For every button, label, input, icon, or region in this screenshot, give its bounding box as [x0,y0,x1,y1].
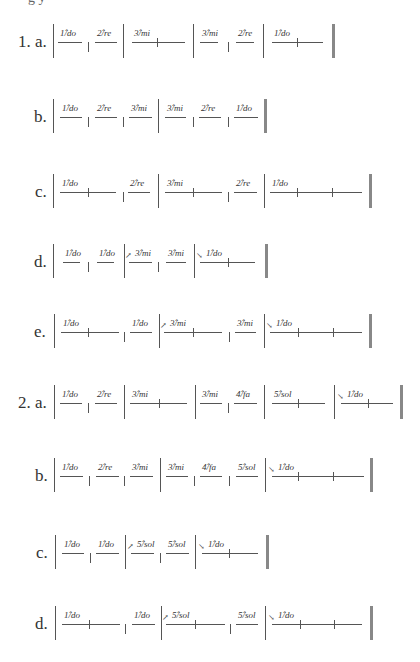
scale-degree-label: 1̂/do [274,28,290,38]
scale-degree-label: 3̂/mi [132,389,148,399]
beat-divider [123,192,124,202]
duration-line [62,553,84,554]
note-cell: 2̂/re [199,97,221,137]
note-cell: 2̂/re [95,383,117,423]
scale-degree-label: 5̂/sol [238,462,256,472]
barline [160,458,161,492]
beat-tick [298,328,299,337]
final-double-barline [369,174,372,208]
note-cell: 3̂/mi [166,242,186,282]
barline [334,385,335,419]
exercise-label: b. [35,466,48,486]
scale-degree-label: 5̂/sol [168,539,186,549]
note-cell: 1̂/do [63,242,80,282]
duration-line [60,403,82,404]
barline [194,244,195,278]
duration-line [128,192,150,193]
note-cell: 5̂/sol [236,456,258,496]
note-cell: 1̂/do [61,312,119,352]
duration-line [131,553,154,554]
duration-line [166,476,188,477]
scale-degree-label: 3̂/mi [167,178,183,188]
scale-degree-label: 2̂/re [236,178,250,188]
barline [159,314,160,348]
beat-divider [124,476,125,486]
exercise-label: c. [35,182,47,202]
note-cell: 1̂/do [132,604,155,644]
beat-tick [159,399,160,408]
barline [55,535,56,569]
duration-line [341,403,393,404]
scale-degree-label: 1̂/do [62,103,78,113]
barline [55,606,56,640]
duration-line [236,476,258,477]
note-cell: 1̂/do [272,22,323,62]
scale-degree-label: 1̂/do [276,318,292,328]
note-cell: 3̂/mi [165,172,222,212]
note-cell: ↗5̂/sol [131,533,154,573]
barline [264,174,265,208]
scale-degree-label: 2̂/re [130,178,144,188]
barline [158,174,159,208]
beat-tick [228,258,229,267]
duration-line [200,42,218,43]
beat-divider [124,332,125,342]
exercise-label: 2. a. [18,393,47,413]
final-double-barline [332,24,335,58]
beat-divider [194,476,195,486]
arrow-up-icon: ↗ [127,542,134,551]
scale-degree-label: 1̂/do [278,462,294,472]
arrow-up-icon: ↗ [162,613,169,622]
barline [54,385,55,419]
beat-tick [88,188,89,197]
note-cell: 1̂/do [60,97,82,137]
scale-degree-label: 3̂/mi [167,103,183,113]
note-cell: ↗3̂/mi [164,312,222,352]
note-cell: 1̂/do [97,242,114,282]
duration-line [60,476,83,477]
note-cell: 3̂/mi [165,97,186,137]
beat-divider [88,42,89,52]
note-cell: 2̂/re [236,22,254,62]
scale-degree-label: 3̂/mi [237,318,253,328]
duration-line [97,262,114,263]
beat-tick [298,472,299,481]
beat-tick [193,328,194,337]
beat-divider [89,476,90,486]
final-double-barline [264,99,267,133]
duration-line [129,262,152,263]
beat-divider [160,553,161,563]
scale-degree-label: 2̂/re [97,28,111,38]
beat-divider [228,192,229,202]
barline [193,24,194,58]
beat-tick [332,188,333,197]
beat-tick [333,472,334,481]
duration-line [60,117,82,118]
exercise-label: 1. a. [18,32,47,52]
note-cell: 2̂/re [234,172,257,212]
barline [54,314,55,348]
barline [123,24,124,58]
scale-degree-label: 5̂/sol [172,610,190,620]
note-cell: 2̂/re [128,172,150,212]
duration-line [234,192,257,193]
duration-line [199,117,221,118]
scale-degree-label: 1̂/do [99,248,115,258]
note-cell: 1̂/do [234,97,258,137]
note-cell: 3̂/mi [132,22,185,62]
scale-degree-label: 1̂/do [62,462,78,472]
arrow-down-icon: ↘ [337,392,344,401]
duration-line [272,624,362,625]
scale-degree-label: 1̂/do [62,389,78,399]
note-cell: ↗3̂/mi [129,242,152,282]
duration-line [95,117,117,118]
beat-divider [229,332,230,342]
beat-tick [297,38,298,47]
note-cell: 5̂/sol [166,533,189,573]
scale-degree-label: 1̂/do [132,318,148,328]
duration-line [130,476,153,477]
beat-divider [230,624,231,634]
exercise-label: c. [36,543,48,563]
exercise-row: e.1̂/do1̂/do↗3̂/mi3̂/mi↘1̂/do [0,312,420,352]
barline [264,385,265,419]
